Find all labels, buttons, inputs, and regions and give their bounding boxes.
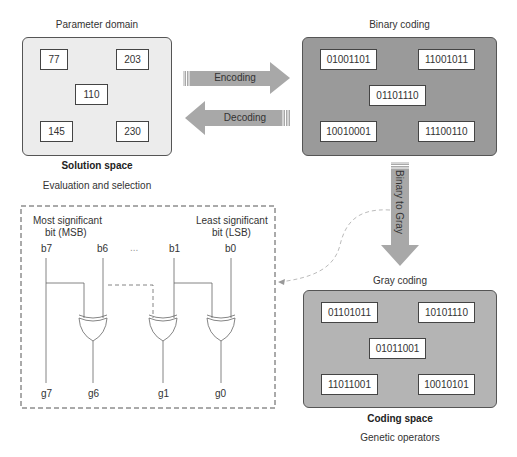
lsb-label-line2: bit (LSB): [212, 227, 251, 238]
output-g6: g6: [88, 388, 99, 399]
msb-label-line2: bit (MSB): [45, 227, 87, 238]
connector-curve: [278, 210, 390, 285]
input-b0: b0: [225, 243, 236, 254]
ellipsis: ...: [130, 242, 138, 253]
circuit-wires: [46, 258, 231, 383]
encoding-label: Encoding: [200, 72, 270, 83]
input-b6: b6: [97, 243, 108, 254]
binary-to-gray-label: Binary to Gray: [394, 170, 405, 234]
input-b1: b1: [169, 243, 180, 254]
input-b7: b7: [41, 243, 52, 254]
decoding-label: Decoding: [205, 112, 285, 123]
xor-gate-icon: [79, 315, 107, 341]
output-g0: g0: [215, 388, 226, 399]
msb-label-line1: Most significant: [33, 215, 102, 226]
output-g1: g1: [158, 388, 169, 399]
lsb-label-line1: Least significant: [196, 215, 268, 226]
xor-gate-icon: [149, 315, 177, 341]
output-g7: g7: [41, 388, 52, 399]
xor-gate-icon: [207, 315, 235, 341]
